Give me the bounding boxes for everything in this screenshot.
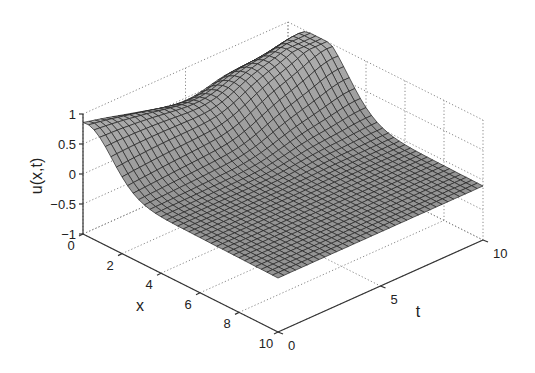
x-tick-label: 10 bbox=[259, 336, 273, 351]
t-tick-label: 5 bbox=[391, 292, 398, 307]
mesh-surface bbox=[83, 32, 483, 278]
t-axis-label: t bbox=[416, 303, 421, 320]
x-tick-label: 0 bbox=[67, 238, 74, 253]
z-tick-label: 1 bbox=[69, 107, 76, 122]
x-tick-label: 6 bbox=[184, 297, 191, 312]
x-tick-label: 8 bbox=[223, 316, 230, 331]
x-axis-label: x bbox=[136, 297, 144, 314]
z-axis-label: u(x,t) bbox=[28, 158, 45, 194]
x-tick-label: 4 bbox=[145, 277, 152, 292]
z-tick-label: 0.5 bbox=[58, 137, 76, 152]
t-tick-label: 10 bbox=[493, 246, 507, 261]
x-tick-label: 2 bbox=[106, 258, 113, 273]
t-tick-label: 0 bbox=[288, 338, 295, 353]
surface-plot: −1−0.500.5102468100510 x t u(x,t) bbox=[0, 0, 535, 373]
z-tick-label: −0.5 bbox=[50, 197, 76, 212]
z-tick-label: 0 bbox=[69, 167, 76, 182]
